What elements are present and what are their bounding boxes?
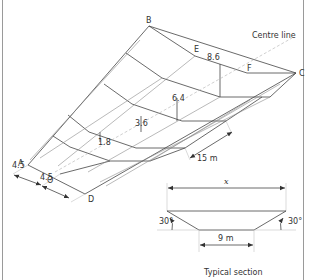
half-width-label-2: 4.5 <box>40 173 53 182</box>
isometric-diagram: B E F C A O D Centre line 1.8 3.6 6.4 8.… <box>0 0 314 280</box>
half-width-label-1: 4.5 <box>12 161 25 170</box>
section-caption: Typical section <box>203 268 263 277</box>
height-label-6-4: 6.4 <box>172 94 185 103</box>
section-bottom-width-label: 9 m <box>218 234 234 243</box>
embankment-outline <box>28 26 296 194</box>
point-label-d: D <box>88 195 94 204</box>
centre-line-label: Centre line <box>252 31 296 40</box>
point-label-e: E <box>194 45 199 54</box>
point-label-b: B <box>146 16 152 25</box>
section-left-angle: 30° <box>159 217 173 226</box>
station-sections <box>53 53 296 174</box>
point-label-c: C <box>299 69 305 78</box>
point-label-f: F <box>247 64 252 73</box>
interval-label: 15 m <box>197 154 218 163</box>
height-label-1-8: 1.8 <box>98 138 111 147</box>
longitudinal-lines <box>30 38 292 186</box>
section-right-angle: 30° <box>288 217 302 226</box>
height-label-3-6: 3.6 <box>135 119 148 128</box>
section-top-width-label: x <box>224 177 229 186</box>
height-label-8-6: 8.6 <box>207 53 220 62</box>
